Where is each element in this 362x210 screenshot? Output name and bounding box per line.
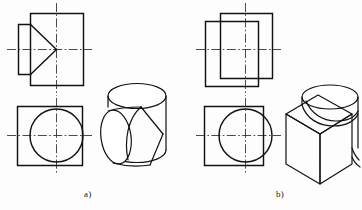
drawing-canvas	[0, 0, 362, 210]
part-a-group	[7, 3, 166, 174]
technical-drawing-figure: a) b)	[0, 0, 362, 210]
pictorial-front-lobe-ellipse-a	[97, 108, 134, 166]
part-a-front-view	[7, 3, 92, 96]
part-a-pictorial-view	[97, 84, 166, 167]
front-view-v-notch-lower-a	[31, 50, 57, 75]
front-view-block-rectangle-b	[206, 22, 259, 87]
top-view-square-b	[205, 107, 264, 166]
pictorial-cylinder-lower-silhouette2-b	[352, 157, 360, 167]
pictorial-v-groove-upper-edge-a	[141, 107, 163, 134]
part-b-top-view	[196, 98, 281, 174]
part-a-top-view	[7, 98, 92, 174]
front-view-cylinder-rectangle-b	[221, 14, 273, 79]
pictorial-cylinder-top-ellipse-a	[108, 84, 166, 109]
front-view-v-notch-upper-a	[31, 25, 57, 50]
part-b-group	[196, 3, 360, 184]
pictorial-v-groove-lower-edge-a	[150, 134, 163, 165]
pictorial-block-left-face-b	[286, 114, 320, 184]
part-b-pictorial-view	[286, 85, 360, 184]
part-b-front-view	[196, 3, 281, 96]
pictorial-cylinder-top-ellipse-b	[302, 85, 358, 109]
